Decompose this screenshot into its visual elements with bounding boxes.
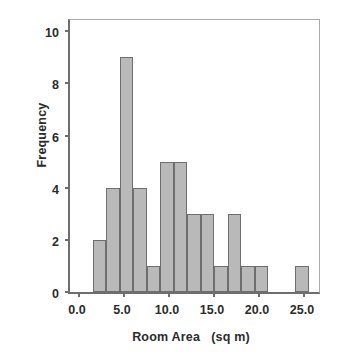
y-axis-tick	[65, 291, 70, 293]
y-axis-tick-label: 8	[52, 78, 59, 92]
bars-layer	[70, 20, 319, 292]
histogram-bar	[228, 214, 242, 292]
histogram-bar	[214, 266, 228, 292]
x-axis-tick	[78, 292, 80, 297]
y-axis-tick-label: 6	[52, 131, 59, 145]
y-axis-tick-label: 0	[52, 287, 59, 301]
x-axis-tick	[258, 292, 260, 297]
histogram-bar	[160, 162, 174, 292]
histogram-bar	[255, 266, 269, 292]
histogram-bar	[93, 240, 107, 292]
y-axis-tick	[65, 239, 70, 241]
histogram-bar	[147, 266, 161, 292]
x-axis-tick-label: 5.0	[113, 303, 130, 317]
histogram-bar	[133, 188, 147, 292]
x-axis-tick	[123, 292, 125, 297]
histogram-bar	[174, 162, 188, 292]
x-axis-tick	[168, 292, 170, 297]
histogram-bar	[295, 266, 309, 292]
histogram-bar	[187, 214, 201, 292]
y-axis-tick	[65, 135, 70, 137]
y-axis-tick-label: 2	[52, 235, 59, 249]
x-axis-tick	[303, 292, 305, 297]
histogram-bar	[120, 57, 134, 292]
x-axis-tick-label: 20.0	[245, 303, 269, 317]
x-axis-tick-label: 10.0	[155, 303, 179, 317]
histogram-bar	[106, 188, 120, 292]
y-axis-tick	[65, 187, 70, 189]
x-axis-tick	[213, 292, 215, 297]
plot-area	[68, 19, 320, 294]
x-axis-tick-label: 15.0	[200, 303, 224, 317]
x-axis-tick-label: 25.0	[290, 303, 314, 317]
x-axis-tick-label: 0.0	[68, 303, 85, 317]
x-axis-title: Room Area (sq m)	[60, 330, 322, 344]
y-axis-tick-label: 4	[52, 183, 59, 197]
histogram-figure: Frequency Room Area (sq m) 0246810 0.05.…	[0, 0, 342, 360]
y-axis-title: Frequency	[35, 75, 49, 195]
histogram-bar	[201, 214, 215, 292]
y-axis-tick-label: 10	[45, 26, 59, 40]
histogram-bar	[241, 266, 255, 292]
y-axis-tick	[65, 82, 70, 84]
y-axis-tick	[65, 30, 70, 32]
